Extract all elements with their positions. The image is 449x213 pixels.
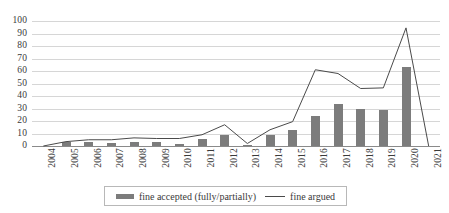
- fine-argued-polyline: [43, 28, 428, 146]
- x-axis: 2004200520062007200820092010201120122013…: [32, 148, 440, 188]
- x-tick-label-2015: 2015: [297, 148, 307, 168]
- legend-entry-fine-accepted: fine accepted (fully/partially): [116, 191, 256, 202]
- x-tick-label-2018: 2018: [365, 148, 375, 168]
- x-tick-label-2005: 2005: [70, 148, 80, 168]
- x-tick-label-2016: 2016: [319, 148, 329, 168]
- chart-figure: 0102030405060708090100 20042005200620072…: [0, 0, 449, 213]
- x-tick-label-2006: 2006: [93, 148, 103, 168]
- y-tick-label-30: 30: [17, 104, 27, 114]
- line-series-fine-argued: [32, 21, 440, 146]
- line-series-path-svg: [32, 21, 440, 146]
- plot-area: [32, 21, 440, 146]
- x-tick-label-2004: 2004: [47, 148, 57, 168]
- legend-entry-fine-argued: fine argued: [265, 191, 335, 202]
- bar-swatch-icon: [116, 194, 134, 199]
- x-tick-label-2017: 2017: [342, 148, 352, 168]
- x-tick-label-2013: 2013: [251, 148, 261, 168]
- y-tick-label-40: 40: [17, 91, 27, 101]
- y-tick-label-50: 50: [17, 79, 27, 89]
- x-tick-label-2009: 2009: [161, 148, 171, 168]
- x-tick-label-2007: 2007: [115, 148, 125, 168]
- x-tick-label-2012: 2012: [229, 148, 239, 168]
- x-tick-label-2014: 2014: [274, 148, 284, 168]
- y-tick-label-0: 0: [22, 141, 27, 151]
- legend-label-fine-argued: fine argued: [290, 191, 335, 202]
- line-swatch-icon: [265, 196, 285, 197]
- chart-legend: fine accepted (fully/partially) fine arg…: [104, 186, 347, 206]
- legend-label-fine-accepted: fine accepted (fully/partially): [139, 191, 256, 202]
- y-tick-label-20: 20: [17, 116, 27, 126]
- x-tick-label-2008: 2008: [138, 148, 148, 168]
- y-tick-label-10: 10: [17, 129, 27, 139]
- y-axis: 0102030405060708090100: [0, 21, 30, 146]
- y-tick-label-80: 80: [17, 41, 27, 51]
- y-tick-label-90: 90: [17, 29, 27, 39]
- x-tick-label-2021: 2021: [433, 148, 443, 168]
- x-tick-label-2020: 2020: [410, 148, 420, 168]
- y-tick-label-60: 60: [17, 66, 27, 76]
- x-tick-label-2019: 2019: [387, 148, 397, 168]
- y-tick-label-100: 100: [12, 16, 27, 26]
- x-tick-label-2011: 2011: [206, 148, 216, 167]
- x-tick-label-2010: 2010: [183, 148, 193, 168]
- y-tick-label-70: 70: [17, 54, 27, 64]
